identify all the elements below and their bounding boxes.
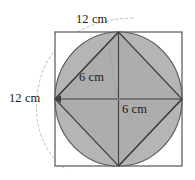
geometry-figure: 12 cm 12 cm 6 cm 6 cm xyxy=(0,0,195,180)
label-top-side: 12 cm xyxy=(76,13,107,26)
label-radius-upper: 6 cm xyxy=(79,71,104,84)
figure-canvas xyxy=(0,0,195,180)
label-radius-lower: 6 cm xyxy=(122,103,147,116)
label-left-side: 12 cm xyxy=(9,92,40,105)
